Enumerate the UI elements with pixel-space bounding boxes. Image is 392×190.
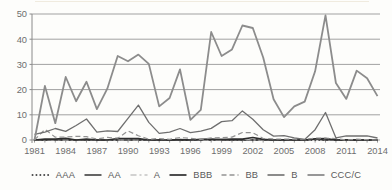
legend-item-aa: AA [83, 170, 121, 180]
legend-item-bbb: BBB [168, 170, 212, 180]
y-tick-label-0: 0 [22, 135, 27, 145]
x-tick-label-1996: 1996 [180, 146, 201, 156]
y-tick-label-20: 20 [17, 85, 27, 95]
chart-legend: AAAAAABBBBBBCCC/C [0, 167, 392, 183]
x-tick-label-1990: 1990 [118, 146, 139, 156]
x-tick-label-1993: 1993 [149, 146, 170, 156]
legend-solid-line-icon [306, 171, 326, 179]
legend-dashed-line-icon [220, 171, 240, 179]
legend-item-ccc-c: CCC/C [306, 170, 361, 180]
y-tick-label-50: 50 [17, 9, 27, 19]
x-tick-label-2014: 2014 [367, 146, 388, 156]
legend-dotted-line-icon [31, 171, 51, 179]
x-tick-label-2002: 2002 [242, 146, 263, 156]
legend-item-a: A [129, 170, 160, 180]
legend-item-bb: BB [220, 170, 258, 180]
x-tick-label-1999: 1999 [211, 146, 232, 156]
series-line-b [35, 105, 378, 139]
legend-label-bb: BB [245, 170, 258, 180]
legend-label-aaa: AAA [56, 170, 75, 180]
x-tick-label-2008: 2008 [305, 146, 326, 156]
x-tick-label-2005: 2005 [274, 146, 295, 156]
x-tick-label-1981: 1981 [24, 146, 45, 156]
series-line-ccc-c [35, 15, 378, 140]
legend-label-ccc-c: CCC/C [331, 170, 361, 180]
y-tick-label-40: 40 [17, 35, 27, 45]
screenshot-root: { "chart_data": { "type": "line", "title… [0, 0, 392, 190]
legend-label-b: B [291, 170, 297, 180]
legend-solid-line-icon [266, 171, 286, 179]
legend-label-bbb: BBB [193, 170, 212, 180]
plot-area: 0102030405019811984198719901993199619992… [0, 0, 392, 162]
x-tick-label-2011: 2011 [336, 146, 356, 156]
legend-label-a: A [154, 170, 160, 180]
legend-solid-line-icon [168, 171, 188, 179]
x-tick-label-1987: 1987 [87, 146, 108, 156]
legend-dashed-line-icon [129, 171, 149, 179]
y-tick-label-30: 30 [17, 60, 27, 70]
legend-label-aa: AA [108, 170, 121, 180]
legend-item-b: B [266, 170, 297, 180]
default-rates-line-chart: 0102030405019811984198719901993199619992… [0, 0, 392, 190]
legend-item-aaa: AAA [31, 170, 75, 180]
x-tick-label-1984: 1984 [55, 146, 76, 156]
y-tick-label-10: 10 [17, 110, 27, 120]
legend-solid-line-icon [83, 171, 103, 179]
